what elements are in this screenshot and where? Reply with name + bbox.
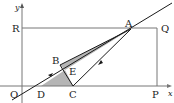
line-da — [12, 3, 172, 100]
label-r: R — [12, 23, 20, 34]
label-e: E — [69, 66, 76, 77]
label-c: C — [69, 89, 77, 100]
label-d: D — [37, 89, 45, 100]
x-axis-arrow-icon — [167, 84, 172, 88]
label-q: Q — [161, 23, 169, 34]
y-axis-label: y — [14, 3, 20, 12]
arrow-on-da-icon — [48, 73, 53, 77]
label-a: A — [124, 18, 133, 29]
geometry-diagram: y x O R Q P A B E D C — [0, 0, 174, 103]
segment-ba — [60, 29, 131, 65]
label-b: B — [52, 55, 59, 66]
x-axis-label: x — [168, 89, 173, 98]
label-o: O — [10, 89, 18, 100]
y-axis-arrow-icon — [20, 3, 24, 8]
label-p: P — [152, 89, 159, 100]
